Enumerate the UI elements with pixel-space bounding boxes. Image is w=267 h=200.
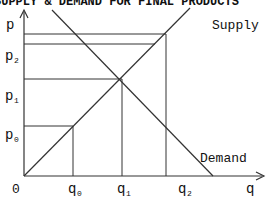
y-tick-p1: p 1 bbox=[5, 88, 19, 105]
demand-curve bbox=[52, 10, 213, 176]
svg-text:0: 0 bbox=[77, 189, 82, 198]
demand-label: Demand bbox=[200, 151, 247, 166]
supply-curve bbox=[24, 8, 190, 176]
y-tick-p0: p 0 bbox=[5, 127, 19, 144]
svg-text:q: q bbox=[68, 181, 76, 197]
x-tick-q2: q 2 bbox=[178, 181, 192, 198]
x-tick-q1: q 1 bbox=[117, 181, 131, 198]
svg-text:1: 1 bbox=[126, 189, 131, 198]
diagram-title: SUPPLY & DEMAND FOR FINAL PRODUCTS bbox=[0, 0, 239, 9]
supply-label: Supply bbox=[212, 18, 259, 33]
y-axis-label: p bbox=[6, 17, 14, 33]
svg-text:2: 2 bbox=[14, 56, 19, 65]
svg-text:p: p bbox=[5, 127, 13, 143]
supply-demand-diagram: SUPPLY & DEMAND FOR FINAL PRODUCTS p q 0… bbox=[0, 0, 267, 200]
x-tick-q0: q 0 bbox=[68, 181, 82, 198]
origin-label: 0 bbox=[12, 182, 20, 197]
svg-text:p: p bbox=[5, 48, 13, 64]
svg-text:2: 2 bbox=[187, 189, 192, 198]
y-tick-p2: p 2 bbox=[5, 48, 19, 65]
svg-text:1: 1 bbox=[14, 96, 19, 105]
svg-text:q: q bbox=[117, 181, 125, 197]
svg-text:q: q bbox=[178, 181, 186, 197]
svg-text:0: 0 bbox=[14, 135, 19, 144]
svg-text:p: p bbox=[5, 88, 13, 104]
x-axis-label: q bbox=[246, 181, 254, 197]
